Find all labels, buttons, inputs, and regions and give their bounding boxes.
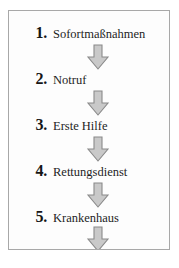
flow-step-label: Rettungsdienst bbox=[53, 163, 127, 182]
flowchart-steps-list: 1. Sofortmaßnahmen 2. Notruf 3. bbox=[9, 11, 169, 249]
flow-step-4[interactable]: 4. Rettungsdienst bbox=[9, 161, 169, 180]
arrow-down-block-icon bbox=[85, 182, 111, 208]
flow-step-number: 4. bbox=[9, 161, 47, 180]
flowchart-frame: 1. Sofortmaßnahmen 2. Notruf 3. bbox=[8, 10, 170, 250]
flow-step-number: 1. bbox=[9, 23, 47, 42]
arrow-down-block-icon bbox=[85, 136, 111, 162]
arrow-down-block-icon bbox=[85, 90, 111, 116]
flow-step-number: 3. bbox=[9, 115, 47, 134]
flow-step-label: Notruf bbox=[53, 71, 86, 90]
flow-step-number: 5. bbox=[9, 207, 47, 226]
arrow-down-block-icon bbox=[85, 44, 111, 70]
flowchart-diagram: 1. Sofortmaßnahmen 2. Notruf 3. bbox=[0, 0, 179, 268]
flow-step-2[interactable]: 2. Notruf bbox=[9, 69, 169, 88]
flow-step-3[interactable]: 3. Erste Hilfe bbox=[9, 115, 169, 134]
flow-step-1[interactable]: 1. Sofortmaßnahmen bbox=[9, 23, 169, 42]
flow-step-label: Sofortmaßnahmen bbox=[53, 25, 145, 44]
arrow-down-block-icon bbox=[85, 226, 111, 250]
flow-step-label: Erste Hilfe bbox=[53, 117, 108, 136]
flow-step-5[interactable]: 5. Krankenhaus bbox=[9, 207, 169, 226]
flow-step-number: 2. bbox=[9, 69, 47, 88]
